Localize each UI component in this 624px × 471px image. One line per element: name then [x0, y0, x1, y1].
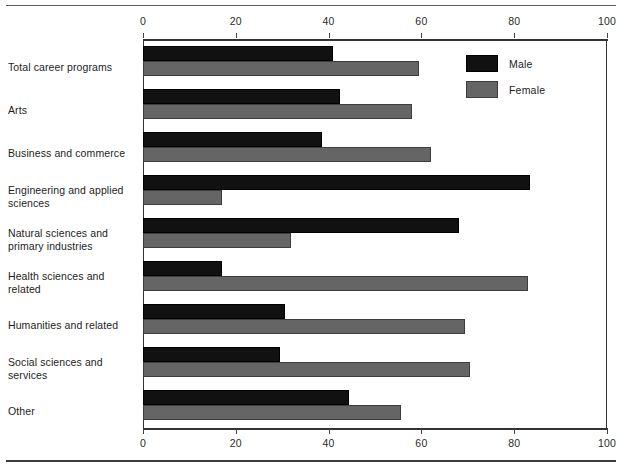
- category-label: Social sciences and services: [8, 356, 140, 381]
- x-axis-tick: [607, 429, 608, 434]
- legend-item-female: Female: [466, 81, 586, 98]
- x-axis-tick: [143, 33, 144, 38]
- bar-male: [143, 175, 530, 190]
- legend-label-female: Female: [509, 84, 545, 96]
- bar-female: [143, 104, 412, 119]
- legend-label-male: Male: [509, 58, 533, 70]
- bar-female: [143, 405, 401, 420]
- x-axis-tick-label: 0: [140, 15, 146, 27]
- bar-female: [143, 362, 470, 377]
- x-axis-tick: [421, 33, 422, 38]
- bar-male: [143, 218, 459, 233]
- category-label: Humanities and related: [8, 319, 140, 332]
- x-axis-tick-label: 80: [508, 15, 520, 27]
- x-axis-tick-label: 0: [140, 437, 146, 449]
- legend-item-male: Male: [466, 55, 586, 72]
- x-axis-tick-label: 100: [598, 15, 616, 27]
- category-label: Arts: [8, 104, 140, 117]
- x-axis-tick: [236, 33, 237, 38]
- category-label: Natural sciences and primary industries: [8, 227, 140, 252]
- bar-female: [143, 147, 431, 162]
- x-axis-tick-label: 40: [323, 15, 335, 27]
- x-axis-tick-label: 60: [415, 15, 427, 27]
- x-axis-tick: [236, 429, 237, 434]
- bar-male: [143, 89, 340, 104]
- x-axis-bottom-line: [143, 428, 608, 430]
- bar-female: [143, 190, 222, 205]
- x-axis-tick-label: 100: [598, 437, 616, 449]
- x-axis-tick: [143, 429, 144, 434]
- x-axis-tick-label: 20: [230, 437, 242, 449]
- category-label: Engineering and applied sciences: [8, 184, 140, 209]
- bar-male: [143, 132, 322, 147]
- bar-male: [143, 304, 285, 319]
- bar-female: [143, 276, 528, 291]
- bar-male: [143, 46, 333, 61]
- x-axis-tick-label: 40: [323, 437, 335, 449]
- x-axis-tick: [329, 33, 330, 38]
- bar-female: [143, 319, 465, 334]
- bar-female: [143, 61, 419, 76]
- x-axis-tick-label: 80: [508, 437, 520, 449]
- bar-female: [143, 233, 291, 248]
- x-axis-tick: [514, 33, 515, 38]
- chart-legend: Male Female: [466, 55, 586, 107]
- x-axis-tick-label: 60: [415, 437, 427, 449]
- bar-male: [143, 261, 222, 276]
- x-axis-tick: [607, 33, 608, 38]
- bar-chart-figure: 002020404060608080100100 Total career pr…: [0, 0, 624, 471]
- legend-swatch-female-icon: [466, 81, 498, 98]
- category-label: Health sciences and related: [8, 270, 140, 295]
- category-label: Total career programs: [8, 61, 140, 74]
- x-axis-tick: [421, 429, 422, 434]
- category-label: Other: [8, 405, 140, 418]
- x-axis-tick-label: 20: [230, 15, 242, 27]
- bar-male: [143, 390, 349, 405]
- legend-swatch-male-icon: [466, 55, 498, 72]
- category-label: Business and commerce: [8, 147, 140, 160]
- x-axis-tick: [329, 429, 330, 434]
- x-axis-tick: [514, 429, 515, 434]
- bar-male: [143, 347, 280, 362]
